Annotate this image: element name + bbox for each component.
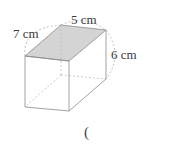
front-face [25, 56, 69, 111]
hidden-edge-back-bottom [61, 75, 106, 79]
height-label: 6 cm [111, 48, 137, 61]
width-label: 5 cm [71, 13, 97, 26]
answer-blank-paren: ( [84, 124, 89, 141]
depth-label: 7 cm [13, 27, 39, 40]
edge-right-bottom [69, 79, 106, 111]
hidden-edge-left-bottom [25, 75, 61, 107]
